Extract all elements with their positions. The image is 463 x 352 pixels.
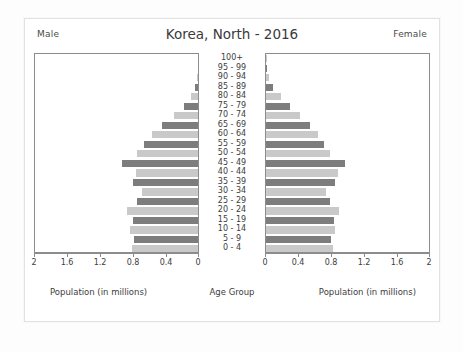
female-bar-panel: [265, 53, 430, 253]
bar-row: [35, 178, 198, 188]
bar: [162, 122, 198, 129]
bar-row: [266, 121, 429, 131]
bar: [152, 131, 198, 138]
axis-tick: [67, 253, 68, 257]
bar-row: [266, 216, 429, 226]
bar-row: [266, 130, 429, 140]
male-axis-line: [34, 253, 199, 254]
axis-tick-label: 0: [195, 258, 200, 267]
bar: [184, 103, 198, 110]
age-group-label: 25 - 29: [199, 196, 265, 206]
axis-tick-label: 0.4: [160, 258, 173, 267]
bar: [266, 65, 267, 72]
bar-row: [35, 102, 198, 112]
chart-header: Korea, North - 2016 Male Female: [25, 29, 439, 49]
bar-row: [266, 168, 429, 178]
bar-row: [266, 197, 429, 207]
axis-tick: [298, 253, 299, 257]
male-bar-panel: [34, 53, 199, 253]
bar: [266, 93, 281, 100]
axis-captions: Population (in millions) Age Group Popul…: [34, 287, 430, 303]
bar-row: [266, 140, 429, 150]
axis-tick: [166, 253, 167, 257]
bar-row: [35, 64, 198, 74]
bar: [266, 84, 273, 91]
age-group-label: 60 - 64: [199, 129, 265, 139]
bar: [266, 217, 334, 224]
bar-row: [266, 149, 429, 159]
right-axis-caption: Population (in millions): [319, 287, 416, 297]
axis-tick-label: 2: [31, 258, 36, 267]
axis-tick: [429, 253, 430, 257]
bar: [137, 198, 198, 205]
axis-tick: [34, 253, 35, 257]
age-group-label: 75 - 79: [199, 101, 265, 111]
bar-row: [35, 225, 198, 235]
bar-row: [266, 178, 429, 188]
bar: [133, 217, 198, 224]
bar: [266, 150, 330, 157]
age-group-label: 40 - 44: [199, 167, 265, 177]
age-group-label: 15 - 19: [199, 215, 265, 225]
axis-tick-label: 1.2: [94, 258, 107, 267]
bar-row: [35, 111, 198, 121]
bar-row: [35, 216, 198, 226]
bar: [197, 74, 198, 81]
age-group-label: 10 - 14: [199, 224, 265, 234]
bar: [266, 207, 339, 214]
bar: [132, 245, 198, 252]
age-group-label: 5 - 9: [199, 234, 265, 244]
axis-tick: [265, 253, 266, 257]
bar: [266, 131, 318, 138]
bar-row: [35, 140, 198, 150]
population-pyramid: 100+95 - 9990 - 9485 - 8980 - 8475 - 797…: [34, 53, 430, 275]
axis-tick: [331, 253, 332, 257]
bar: [266, 169, 338, 176]
bar-row: [266, 225, 429, 235]
bar-row: [266, 54, 429, 64]
bar: [130, 226, 198, 233]
bar: [266, 236, 331, 243]
age-group-axis: 100+95 - 9990 - 9485 - 8980 - 8475 - 797…: [199, 53, 265, 253]
axis-tick: [198, 253, 199, 257]
axis-tick-label: 1.2: [358, 258, 371, 267]
bar: [266, 179, 335, 186]
axis-tick: [100, 253, 101, 257]
bar: [174, 112, 198, 119]
bar-row: [35, 149, 198, 159]
bar: [133, 179, 198, 186]
bar-row: [35, 130, 198, 140]
female-x-axis: 00.40.81.21.62: [265, 253, 430, 275]
age-group-label: 90 - 94: [199, 72, 265, 82]
bar-row: [35, 73, 198, 83]
age-group-label: 0 - 4: [199, 243, 265, 253]
bar-row: [266, 206, 429, 216]
bar-row: [266, 102, 429, 112]
bar: [266, 198, 330, 205]
bar-row: [35, 121, 198, 131]
bar: [137, 150, 198, 157]
bar-row: [35, 197, 198, 207]
bar: [195, 84, 198, 91]
bar-row: [35, 83, 198, 93]
age-group-label: 50 - 54: [199, 148, 265, 158]
bar-row: [266, 159, 429, 169]
bar-row: [266, 244, 429, 253]
bar-row: [266, 64, 429, 74]
bar-row: [35, 168, 198, 178]
age-group-label: 65 - 69: [199, 120, 265, 130]
axis-tick-label: 2: [426, 258, 431, 267]
female-legend-label: Female: [393, 29, 427, 39]
axis-tick-label: 0.4: [292, 258, 305, 267]
bar-row: [35, 206, 198, 216]
axis-tick-label: 0: [262, 258, 267, 267]
bar: [266, 74, 269, 81]
age-group-label: 45 - 49: [199, 158, 265, 168]
age-group-label: 95 - 99: [199, 63, 265, 73]
bar: [266, 103, 290, 110]
axis-tick-label: 1.6: [61, 258, 74, 267]
bar: [266, 122, 310, 129]
axis-tick-label: 0.8: [127, 258, 140, 267]
bar: [136, 169, 198, 176]
bar-row: [266, 235, 429, 245]
